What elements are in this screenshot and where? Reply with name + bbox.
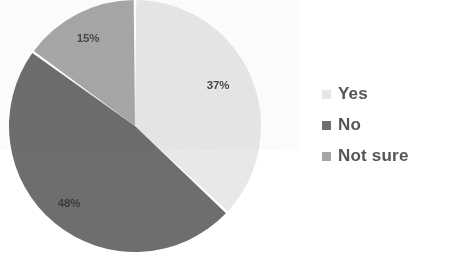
legend-label-not-sure: Not sure xyxy=(338,146,409,166)
legend-item-no[interactable]: No xyxy=(322,109,456,140)
pie-slice-value-no: 48% xyxy=(58,197,80,209)
pie-svg: 37%48%15% xyxy=(9,0,261,252)
pie-chart-figure: 37%48%15% Yes No Not sure xyxy=(0,0,456,262)
pie-slices-group xyxy=(9,0,261,252)
legend-swatch-not-sure xyxy=(322,152,331,161)
legend-swatch-no xyxy=(322,121,331,130)
legend-item-not-sure[interactable]: Not sure xyxy=(322,140,456,171)
pie-slice-value-not-sure: 15% xyxy=(77,32,99,44)
legend-item-yes[interactable]: Yes xyxy=(322,78,456,109)
legend-label-no: No xyxy=(338,115,361,135)
chart-legend: Yes No Not sure xyxy=(322,78,456,171)
pie-chart-graphic: 37%48%15% xyxy=(9,0,261,252)
pie-slice-value-yes: 37% xyxy=(207,79,229,91)
legend-label-yes: Yes xyxy=(338,84,368,104)
legend-swatch-yes xyxy=(322,90,331,99)
